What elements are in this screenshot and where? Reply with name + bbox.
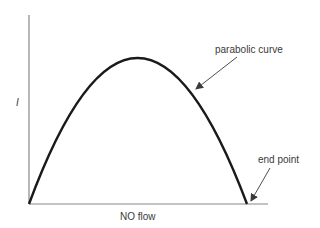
end-point-annotation: end point [258, 154, 299, 165]
end-point-arrow [251, 168, 270, 201]
parabolic-curve-annotation: parabolic curve [215, 44, 283, 55]
y-axis-label: I [16, 97, 19, 108]
parabolic-curve-arrow [196, 57, 237, 89]
x-axis-label: NO flow [120, 211, 156, 222]
parabolic-curve [29, 58, 247, 204]
parabolic-curve-diagram: I NO flow parabolic curve end point [0, 0, 320, 228]
